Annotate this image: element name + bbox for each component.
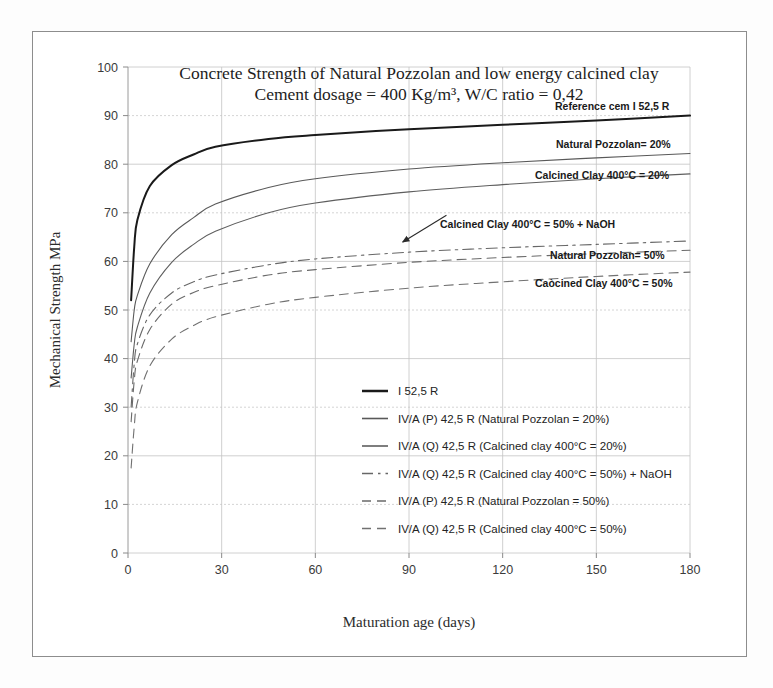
legend-item-label-3: IV/A (Q) 42,5 R (Calcined clay 400°C = 5… (398, 468, 672, 480)
y-tick-label-20: 20 (104, 449, 118, 463)
y-tick-label-0: 0 (111, 547, 118, 561)
x-tick-label-150: 150 (586, 563, 607, 577)
chart-subtitle: Cement dosage = 400 Kg/m³, W/C ratio = 0… (255, 84, 584, 104)
curve-label-3: Calcined Clay 400°C = 50% + NaOH (440, 218, 615, 230)
y-tick-label-30: 30 (104, 401, 118, 415)
curve-label-2: Calcined Clay 400°C = 20% (535, 169, 670, 181)
series-line-5 (131, 272, 690, 468)
y-tick-label-100: 100 (97, 61, 118, 75)
x-tick-label-60: 60 (308, 563, 322, 577)
legend-item-label-0: I 52,5 R (398, 385, 438, 397)
series-line-3 (131, 241, 690, 407)
x-tick-label-30: 30 (215, 563, 229, 577)
x-tick-label-90: 90 (402, 563, 416, 577)
y-tick-label-60: 60 (104, 255, 118, 269)
curve-label-5: Caòcined Clay 400°C = 50% (535, 277, 673, 289)
curve-label-4: Natural Pozzolan= 50% (550, 249, 665, 261)
y-tick-label-40: 40 (104, 352, 118, 366)
y-tick-label-90: 90 (104, 109, 118, 123)
x-tick-label-180: 180 (680, 563, 701, 577)
x-tick-label-0: 0 (125, 563, 132, 577)
curve-labels-group: Reference cem I 52,5 RNatural Pozzolan= … (440, 100, 673, 289)
series-line-1 (131, 154, 690, 342)
chart-plot-area: 01020304050607080901000306090120150180Co… (0, 0, 773, 688)
y-axis-label: Mechanical Strength MPa (47, 231, 63, 388)
curve-label-1: Natural Pozzolan= 20% (556, 138, 671, 150)
y-tick-label-70: 70 (104, 206, 118, 220)
y-tick-label-80: 80 (104, 158, 118, 172)
legend-item-label-5: IV/A (Q) 42,5 R (Calcined clay 400°C = 5… (398, 523, 627, 535)
y-tick-label-10: 10 (104, 498, 118, 512)
chart-title: Concrete Strength of Natural Pozzolan an… (179, 63, 659, 83)
y-tick-label-50: 50 (104, 304, 118, 318)
y-axis-ticks: 0102030405060708090100 (97, 61, 128, 561)
x-tick-label-120: 120 (492, 563, 513, 577)
x-axis-ticks: 0306090120150180 (125, 553, 701, 577)
x-axis-label: Maturation age (days) (343, 614, 475, 631)
figure-canvas: 01020304050607080901000306090120150180Co… (0, 0, 773, 688)
legend-item-label-2: IV/A (Q) 42,5 R (Calcined clay 400°C = 2… (398, 440, 627, 452)
curve-label-0: Reference cem I 52,5 R (555, 100, 670, 112)
legend-item-label-1: IV/A (P) 42,5 R (Natural Pozzolan = 20%) (398, 413, 609, 425)
legend-item-label-4: IV/A (P) 42,5 R (Natural Pozzolan = 50%) (398, 495, 609, 507)
